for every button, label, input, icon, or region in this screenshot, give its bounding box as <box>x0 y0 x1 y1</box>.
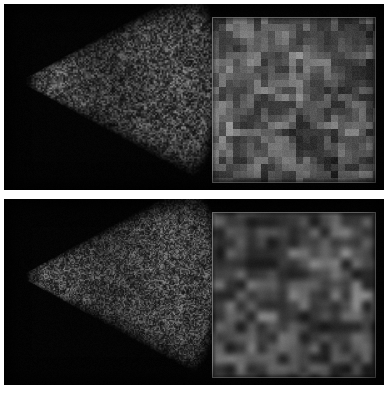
ultrasound-panel-top <box>4 4 384 190</box>
ultrasound-image-bottom <box>4 199 384 385</box>
figure-container <box>0 0 388 393</box>
ultrasound-panel-bottom <box>4 199 384 385</box>
ultrasound-image-top <box>4 4 384 190</box>
